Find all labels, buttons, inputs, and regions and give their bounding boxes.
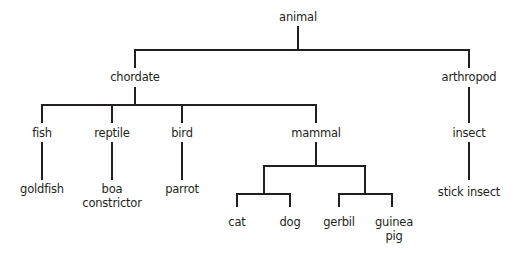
connector-cat-dog-branch — [236, 193, 291, 195]
connector-to-mammal — [315, 104, 317, 123]
connector-to-cat — [236, 193, 238, 207]
connector-mammal-branch — [263, 165, 366, 167]
node-boa-constrictor-line2: constrictor — [82, 196, 141, 211]
node-cat: cat — [228, 215, 245, 230]
node-insect: insect — [452, 126, 485, 141]
connector-to-bird — [181, 104, 183, 123]
node-stick-insect: stick insect — [438, 185, 500, 200]
node-guinea-pig-line2: pig — [385, 229, 402, 244]
connector-to-reptile — [111, 104, 113, 123]
node-guinea-pig-line1: guinea — [375, 215, 413, 230]
connector-to-chordate — [134, 49, 136, 68]
connector-insect-stick-insect — [468, 142, 470, 180]
connector-animal-down — [297, 26, 299, 51]
connector-to-fish — [41, 104, 43, 123]
connector-to-arthropod — [468, 49, 470, 68]
node-chordate: chordate — [110, 70, 160, 85]
connector-animal-branch — [134, 49, 470, 51]
connector-chordate-branch — [41, 104, 317, 106]
connector-reptile-boa — [111, 142, 113, 180]
node-mammal: mammal — [291, 126, 341, 141]
connector-to-cat-dog-group — [263, 165, 265, 194]
connector-to-gerbil-guinea-group — [364, 165, 366, 194]
node-fish: fish — [32, 126, 52, 141]
node-gerbil: gerbil — [323, 215, 355, 230]
connector-mammal-down — [315, 142, 317, 167]
taxonomy-tree: animal chordate arthropod fish reptile b… — [0, 0, 516, 253]
node-arthropod: arthropod — [442, 70, 497, 85]
node-animal: animal — [279, 10, 317, 25]
connector-arthropod-insect — [468, 87, 470, 123]
connector-bird-parrot — [181, 142, 183, 180]
node-parrot: parrot — [165, 182, 199, 197]
node-bird: bird — [171, 126, 193, 141]
node-boa-constrictor-line1: boa — [102, 182, 123, 197]
node-reptile: reptile — [94, 126, 129, 141]
connector-to-dog — [289, 193, 291, 207]
connector-fish-goldfish — [41, 142, 43, 180]
node-goldfish: goldfish — [20, 182, 64, 197]
node-dog: dog — [279, 215, 300, 230]
connector-gerbil-guinea-branch — [338, 193, 393, 195]
connector-to-guinea-pig — [391, 193, 393, 207]
connector-to-gerbil — [338, 193, 340, 207]
